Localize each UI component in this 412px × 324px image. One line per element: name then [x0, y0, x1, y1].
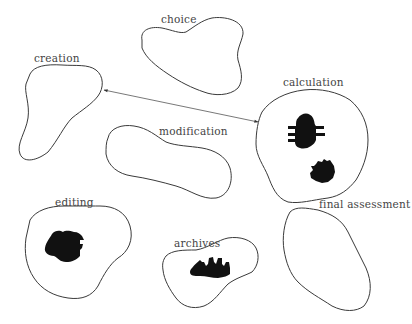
diagram-canvas: choice creation calculation modification…: [0, 0, 412, 324]
artifact-archives: [190, 257, 230, 278]
region-label-archives: archives: [174, 237, 220, 249]
connection-arrow-creation-calculation: [104, 90, 258, 122]
region-outline-choice: [142, 18, 243, 95]
region-label-choice: choice: [161, 13, 197, 25]
region-outline-calculation: [256, 89, 368, 202]
region-outline-final-assessment: [283, 208, 370, 311]
diagram-shapes: [0, 0, 412, 324]
artifact-editing: [45, 231, 84, 262]
region-label-modification: modification: [159, 125, 228, 137]
region-outline-creation: [19, 65, 102, 160]
region-label-editing: editing: [55, 196, 94, 208]
artifact-calculation-2: [310, 159, 335, 183]
artifact-calculation-1: [288, 114, 325, 149]
region-label-final-assessment: final assessment: [319, 198, 410, 210]
region-label-creation: creation: [34, 52, 80, 64]
region-label-calculation: calculation: [283, 76, 344, 88]
